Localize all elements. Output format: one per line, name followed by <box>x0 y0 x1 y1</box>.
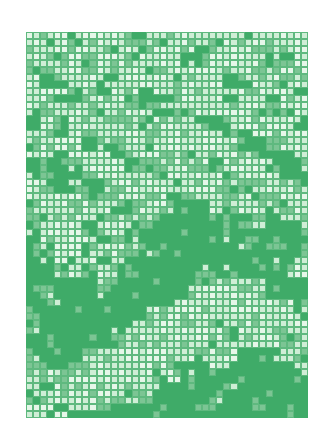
mosaic-cell <box>61 236 68 243</box>
mosaic-cell <box>40 271 47 278</box>
mosaic-cell <box>259 341 266 348</box>
mosaic-cell <box>252 214 259 221</box>
mosaic-cell <box>301 306 308 313</box>
mosaic-cell <box>111 376 118 383</box>
mosaic-cell <box>47 383 54 390</box>
mosaic-cell <box>26 200 33 207</box>
mosaic-cell <box>139 74 146 81</box>
mosaic-cell <box>132 243 139 250</box>
mosaic-cell <box>104 179 111 186</box>
mosaic-cell <box>230 67 237 74</box>
mosaic-cell <box>104 39 111 46</box>
mosaic-cell <box>245 411 252 418</box>
mosaic-cell <box>174 299 181 306</box>
mosaic-cell <box>252 243 259 250</box>
mosaic-cell <box>216 39 223 46</box>
mosaic-cell <box>26 207 33 214</box>
mosaic-cell <box>68 39 75 46</box>
mosaic-cell <box>223 236 230 243</box>
mosaic-cell <box>230 292 237 299</box>
mosaic-cell <box>26 53 33 60</box>
mosaic-cell <box>287 74 294 81</box>
mosaic-cell <box>181 376 188 383</box>
mosaic-cell <box>54 81 61 88</box>
mosaic-cell <box>160 271 167 278</box>
mosaic-cell <box>181 95 188 102</box>
mosaic-cell <box>160 39 167 46</box>
mosaic-cell <box>174 123 181 130</box>
mosaic-cell <box>167 172 174 179</box>
mosaic-cell <box>273 53 280 60</box>
mosaic-cell <box>301 193 308 200</box>
mosaic-cell <box>75 369 82 376</box>
mosaic-cell <box>202 376 209 383</box>
mosaic-cell <box>238 278 245 285</box>
mosaic-cell <box>245 109 252 116</box>
mosaic-cell <box>33 271 40 278</box>
mosaic-cell <box>238 95 245 102</box>
mosaic-cell <box>146 243 153 250</box>
mosaic-cell <box>26 292 33 299</box>
mosaic-cell <box>125 355 132 362</box>
mosaic-cell <box>167 390 174 397</box>
mosaic-cell <box>89 130 96 137</box>
mosaic-cell <box>216 313 223 320</box>
mosaic-cell <box>160 264 167 271</box>
mosaic-cell <box>75 341 82 348</box>
mosaic-cell <box>132 376 139 383</box>
mosaic-cell <box>223 376 230 383</box>
mosaic-cell <box>125 32 132 39</box>
mosaic-cell <box>167 74 174 81</box>
mosaic-cell <box>33 313 40 320</box>
mosaic-cell <box>146 306 153 313</box>
mosaic-cell <box>61 32 68 39</box>
mosaic-cell <box>132 81 139 88</box>
mosaic-cell <box>294 221 301 228</box>
mosaic-cell <box>97 172 104 179</box>
mosaic-cell <box>82 39 89 46</box>
mosaic-cell <box>287 179 294 186</box>
mosaic-cell <box>75 46 82 53</box>
mosaic-cell <box>40 264 47 271</box>
mosaic-cell <box>181 214 188 221</box>
mosaic-cell <box>259 243 266 250</box>
mosaic-cell <box>54 158 61 165</box>
mosaic-cell <box>216 327 223 334</box>
mosaic-cell <box>181 88 188 95</box>
mosaic-cell <box>54 278 61 285</box>
mosaic-cell <box>259 186 266 193</box>
mosaic-cell <box>294 271 301 278</box>
mosaic-cell <box>266 172 273 179</box>
mosaic-cell <box>160 67 167 74</box>
mosaic-cell <box>195 229 202 236</box>
mosaic-cell <box>202 348 209 355</box>
mosaic-cell <box>245 123 252 130</box>
mosaic-cell <box>146 95 153 102</box>
mosaic-cell <box>273 102 280 109</box>
mosaic-cell <box>139 369 146 376</box>
mosaic-cell <box>33 109 40 116</box>
mosaic-cell <box>153 229 160 236</box>
mosaic-cell <box>33 200 40 207</box>
mosaic-cell <box>195 313 202 320</box>
mosaic-cell <box>202 299 209 306</box>
mosaic-cell <box>160 390 167 397</box>
mosaic-cell <box>287 404 294 411</box>
mosaic-cell <box>167 46 174 53</box>
mosaic-cell <box>216 383 223 390</box>
mosaic-cell <box>280 123 287 130</box>
mosaic-cell <box>132 53 139 60</box>
mosaic-cell <box>209 130 216 137</box>
mosaic-cell <box>139 411 146 418</box>
mosaic-cell <box>301 88 308 95</box>
mosaic-cell <box>139 151 146 158</box>
mosaic-cell <box>89 186 96 193</box>
mosaic-cell <box>223 144 230 151</box>
mosaic-cell <box>118 271 125 278</box>
mosaic-cell <box>68 95 75 102</box>
mosaic-cell <box>160 320 167 327</box>
mosaic-cell <box>209 46 216 53</box>
mosaic-cell <box>202 207 209 214</box>
mosaic-cell <box>209 214 216 221</box>
mosaic-cell <box>259 285 266 292</box>
